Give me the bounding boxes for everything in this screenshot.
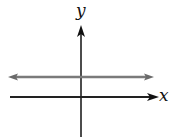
coordinate-plane-diagram (0, 0, 170, 137)
y-axis (77, 25, 85, 137)
x-axis (10, 93, 159, 101)
y-axis-label: y (76, 2, 86, 19)
x-axis-label: x (159, 87, 169, 104)
